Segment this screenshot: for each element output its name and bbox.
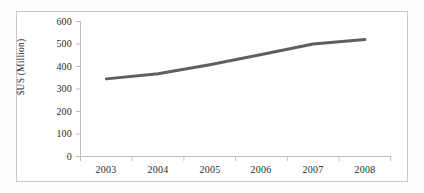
chart-figure: 600 500 400 300 200 100 0 2003 2004 2005… [0, 0, 424, 193]
y-tick-label-400: 400 [38, 61, 72, 72]
y-axis-title: $US (Million) [16, 22, 26, 112]
y-tick-label-0: 0 [38, 151, 72, 162]
x-tick-label-2006: 2006 [238, 164, 284, 175]
data-series-line [106, 40, 365, 79]
y-tick-label-600: 600 [38, 16, 72, 27]
y-tick-label-500: 500 [38, 38, 72, 49]
x-tick-label-2008: 2008 [342, 164, 388, 175]
y-tick-label-100: 100 [38, 128, 72, 139]
y-tick-label-200: 200 [38, 106, 72, 117]
x-tick-label-2003: 2003 [83, 164, 129, 175]
y-tick-label-300: 300 [38, 83, 72, 94]
x-tick-label-2007: 2007 [290, 164, 336, 175]
x-axis-ticks [81, 157, 391, 162]
x-tick-label-2004: 2004 [135, 164, 181, 175]
x-tick-label-2005: 2005 [187, 164, 233, 175]
y-axis-ticks [76, 22, 81, 157]
